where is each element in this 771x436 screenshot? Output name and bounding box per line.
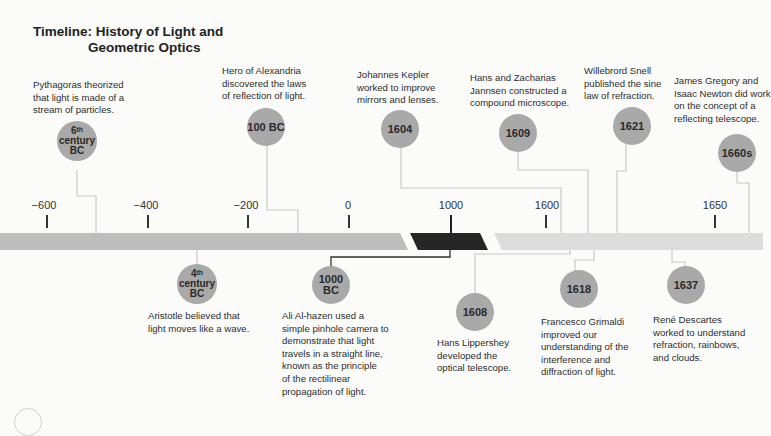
- event-lippershey-text: Hans Lippersheydeveloped theoptical tele…: [437, 337, 511, 375]
- tick-mark: [450, 215, 452, 235]
- event-jannsen-marker: 1609: [499, 114, 537, 152]
- connector-1000: [331, 250, 450, 266]
- event-gregory-newton-marker: 1660s: [718, 134, 756, 172]
- event-grimaldi-text: Francesco Grimaldiimproved ourunderstand…: [541, 316, 628, 379]
- page-corner-circle-icon: [14, 408, 42, 436]
- tick-mark: [46, 215, 48, 228]
- event-hero-text: Hero of Alexandriadiscovered the lawsof …: [222, 65, 306, 103]
- tick-label: 0: [345, 199, 351, 211]
- event-kepler-marker: 1604: [381, 110, 419, 148]
- event-pythagoras-marker: 6thcenturyBC: [57, 121, 97, 161]
- tick-label: −400: [134, 199, 159, 211]
- tick-mark: [714, 215, 716, 228]
- ancient-bar: [0, 233, 408, 250]
- event-hero-marker: 100 BC: [247, 108, 285, 146]
- tick-label: 1650: [703, 199, 727, 211]
- event-pythagoras-text: Pythagoras theorizedthat light is made o…: [33, 79, 124, 117]
- medieval-bar: [410, 233, 488, 250]
- event-snell-text: Willebrord Snellpublished the sinelaw of…: [584, 65, 661, 103]
- tick-label: −200: [234, 199, 259, 211]
- event-snell-marker: 1621: [613, 107, 651, 145]
- event-alhazen-marker: 1000BC: [312, 266, 350, 304]
- event-kepler-text: Johannes Keplerworked to improvemirrors …: [357, 69, 439, 107]
- modern-bar: [494, 233, 763, 250]
- event-alhazen-text: Ali Al-hazen used asimple pinhole camera…: [282, 310, 389, 398]
- event-aristotle-marker: 4thcenturyBC: [177, 264, 217, 304]
- event-lippershey-marker: 1608: [456, 293, 494, 331]
- tick-label: 1000: [439, 199, 463, 211]
- tick-label: −600: [32, 199, 57, 211]
- tick-mark: [247, 215, 249, 228]
- event-gregory-newton-text: James Gregory andIsaac Newton did workon…: [674, 75, 771, 125]
- tick-mark: [348, 215, 350, 228]
- event-aristotle-text: Aristotle believed thatlight moves like …: [148, 310, 249, 335]
- event-grimaldi-marker: 1618: [560, 270, 598, 308]
- event-descartes-text: René Descartesworked to understandrefrac…: [653, 314, 745, 364]
- event-jannsen-text: Hans and ZachariasJannsen constructed ac…: [470, 72, 569, 110]
- tick-mark: [545, 215, 547, 228]
- tick-mark: [147, 215, 149, 228]
- event-descartes-marker: 1637: [667, 266, 705, 304]
- tick-label: 1600: [535, 199, 559, 211]
